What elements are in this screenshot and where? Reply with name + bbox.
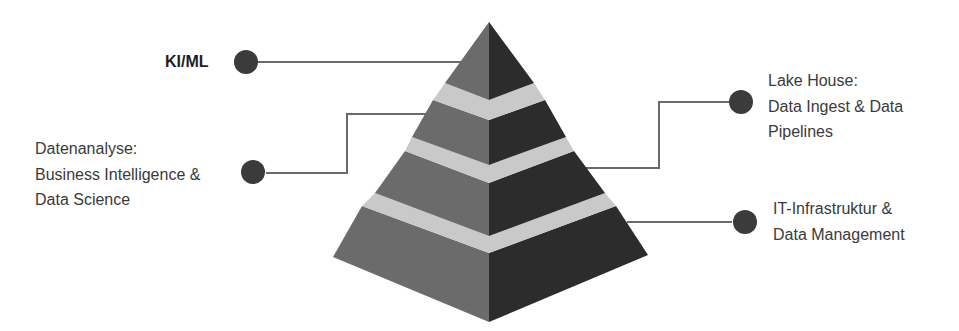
label-datenanalyse-line-3: Data Science [35,187,200,213]
label-lakehouse: Lake House: Data Ingest & Data Pipelines [768,68,903,145]
label-kiml: KI/ML [165,49,209,75]
dot-kiml [234,50,258,74]
label-kiml-line-1: KI/ML [165,49,209,75]
label-datenanalyse: Datenanalyse: Business Intelligence & Da… [35,136,200,213]
label-infrastruktur-line-2: Data Management [773,222,905,248]
label-datenanalyse-line-1: Datenanalyse: [35,136,200,162]
dot-lakehouse [729,90,753,114]
label-datenanalyse-line-2: Business Intelligence & [35,162,200,188]
label-infrastruktur-line-1: IT-Infrastruktur & [773,196,905,222]
dot-infrastruktur [733,210,757,234]
label-lakehouse-line-3: Pipelines [768,119,903,145]
label-infrastruktur: IT-Infrastruktur & Data Management [773,196,905,247]
label-lakehouse-line-1: Lake House: [768,68,903,94]
label-lakehouse-line-2: Data Ingest & Data [768,94,903,120]
dot-datenanalyse [241,160,265,184]
connector-lakehouse [578,102,729,168]
